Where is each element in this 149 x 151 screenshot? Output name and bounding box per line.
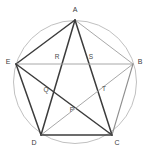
vertex-label-e: E [6,58,11,65]
geometry-canvas: ABCDE PQRST [0,0,149,151]
vertex-labels-layer: ABCDE [6,6,143,146]
vertex-label-a: A [73,6,78,13]
vertex-label-b: B [138,58,143,65]
segment-A-B [75,20,133,64]
point-label-s: S [89,53,94,60]
segment-B-C [112,64,133,135]
vertex-label-d: D [31,139,36,146]
segment-A-C [75,20,112,135]
segment-A-D [41,20,75,135]
point-label-q: Q [43,86,48,94]
point-label-r: R [55,53,60,60]
segments-layer [16,20,133,135]
point-label-t: T [102,85,106,92]
geometry-figure: ABCDE PQRST [0,0,149,151]
circumscribed-circle [14,21,137,144]
point-labels-layer: PQRST [43,53,106,113]
segment-E-D [16,64,41,135]
point-label-p: P [70,106,74,113]
segment-A-E [16,20,75,64]
vertex-label-c: C [114,139,119,146]
